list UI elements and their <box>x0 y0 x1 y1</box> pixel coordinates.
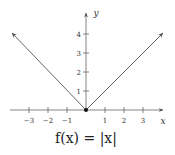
y-tick-label: 3 <box>77 50 81 58</box>
function-left-branch <box>12 33 86 110</box>
x-tick-label: 1 <box>103 117 107 125</box>
x-tick-label: −1 <box>62 117 72 125</box>
y-tick-label: 2 <box>77 69 81 77</box>
chart-caption: f(x) = |x| <box>55 130 117 147</box>
x-axis-label: x <box>160 116 165 126</box>
y-axis-label: y <box>92 8 99 18</box>
y-tick-label: 1 <box>77 88 81 96</box>
abs-value-graph: −3 −2 −1 1 2 3 1 2 3 4 x y f(x) = |x| <box>0 0 175 155</box>
vertex-point <box>84 108 88 112</box>
x-tick-label: 3 <box>141 117 145 125</box>
x-tick-label: −2 <box>43 117 53 125</box>
x-tick-label: 2 <box>122 117 126 125</box>
x-tick-label: −3 <box>24 117 34 125</box>
y-tick-label: 4 <box>77 31 82 39</box>
function-right-branch <box>86 33 163 110</box>
